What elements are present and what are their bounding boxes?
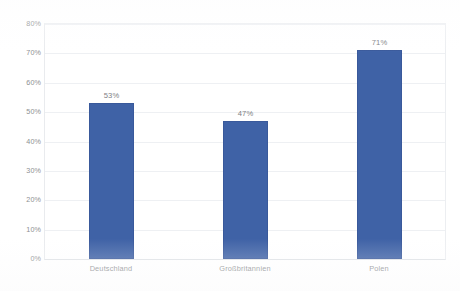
bar-value-label: 53% [69, 91, 154, 100]
bar-value-label: 71% [337, 38, 422, 47]
bars-layer: 53%Deutschland47%Großbritannien71%Polen [0, 0, 460, 291]
cropped-caption [14, 283, 444, 291]
bar-chart: 80%70%60%50%40%30%20%10%0% 53%Deutschlan… [0, 0, 460, 291]
bar-deutschland[interactable] [89, 103, 134, 259]
x-axis-category-label: Polen [299, 264, 459, 273]
bar-value-label: 47% [203, 109, 288, 118]
bar-großbritannien[interactable] [223, 121, 268, 259]
bar-polen[interactable] [357, 50, 402, 259]
